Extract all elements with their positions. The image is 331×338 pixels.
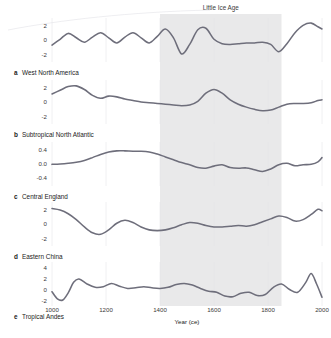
ytick-b-2: -2 xyxy=(42,113,48,120)
ytick-e-1: 2 xyxy=(44,275,48,282)
ytick-d-0: 2 xyxy=(44,206,48,213)
panel-letter-a: a xyxy=(14,69,18,76)
xtick-1400: 1400 xyxy=(153,306,167,313)
xtick-1800: 1800 xyxy=(261,306,275,313)
panel-name-c: Central England xyxy=(22,193,68,201)
ytick-c-1: 0.0 xyxy=(39,160,48,167)
panel-letter-d: d xyxy=(14,253,18,260)
panel-letter-b: b xyxy=(14,131,18,138)
panel-name-e: Tropical Andes xyxy=(22,313,64,321)
panel-letter-e: e xyxy=(14,313,18,320)
xtick-1600: 1600 xyxy=(207,306,221,313)
ytick-e-3: -2 xyxy=(42,297,48,304)
panel-name-d: Eastern China xyxy=(22,253,63,260)
little-ice-age-label: Little Ice Age xyxy=(203,4,240,12)
figure-canvas: Little Ice Age20-2aWest North America20-… xyxy=(0,0,331,338)
ytick-a-2: -2 xyxy=(42,51,48,58)
panel-name-a: West North America xyxy=(22,69,79,76)
ytick-d-2: -2 xyxy=(42,235,48,242)
panel-name-b: Subtropical North Atlantic xyxy=(22,131,95,139)
ytick-c-2: -0.4 xyxy=(36,174,47,181)
ytick-e-2: 0 xyxy=(44,286,48,293)
ytick-b-0: 2 xyxy=(44,84,48,91)
ytick-e-0: 4 xyxy=(44,264,48,271)
climate-proxy-figure: Little Ice Age20-2aWest North America20-… xyxy=(0,0,331,338)
ytick-c-0: 0.4 xyxy=(39,146,48,153)
little-ice-age-band xyxy=(160,14,282,306)
xtick-1200: 1200 xyxy=(99,306,113,313)
ytick-a-0: 2 xyxy=(44,22,48,29)
xtick-1000: 1000 xyxy=(45,306,59,313)
ytick-b-1: 0 xyxy=(44,98,48,105)
panel-letter-c: c xyxy=(14,193,18,200)
ytick-a-1: 0 xyxy=(44,36,48,43)
x-axis-title: Year (ce) xyxy=(175,318,200,325)
xtick-2000: 2000 xyxy=(315,306,329,313)
ytick-d-1: 0 xyxy=(44,220,48,227)
